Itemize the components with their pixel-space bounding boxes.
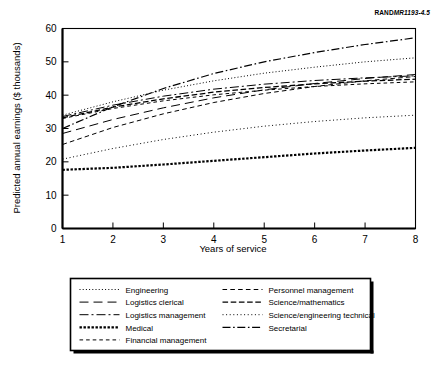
series-line [63, 38, 416, 129]
rand-figure-number: MR1193-4.5 [394, 9, 430, 16]
series-line [63, 77, 416, 145]
y-tick-label: 60 [45, 23, 57, 34]
x-tick-label: 4 [211, 234, 217, 245]
legend-item-label: Science/engineering technical [269, 311, 376, 320]
x-axis-title: Years of service [199, 243, 266, 254]
y-tick-label: 40 [45, 90, 57, 101]
y-tick-label: 50 [45, 56, 57, 67]
x-tick-label: 5 [261, 234, 267, 245]
legend-item-label: Logistics management [126, 311, 207, 320]
x-tick-label: 8 [413, 234, 419, 245]
legend-item-label: Personnel management [269, 286, 355, 295]
series-line [63, 75, 416, 134]
y-tick-label: 20 [45, 156, 57, 167]
series-line [63, 148, 416, 170]
chart-legend: EngineeringLogistics clericalLogistics m… [71, 279, 376, 354]
y-tick-label: 10 [45, 190, 57, 201]
x-tick-label: 1 [60, 234, 66, 245]
legend-item-label: Logistics clerical [126, 298, 184, 307]
series-line [63, 82, 416, 119]
legend-item-label: Financial management [126, 336, 208, 345]
series-line [63, 76, 416, 117]
y-tick-label: 30 [45, 123, 57, 134]
figure-container: RANDMR1193-4.5 Predicted annual earnings… [0, 0, 438, 367]
rand-brand-label: RAND [375, 9, 394, 16]
legend-item-label: Secretarial [269, 324, 307, 333]
axes-layer: 010203040506012345678 [45, 23, 418, 244]
x-tick-label: 2 [110, 234, 116, 245]
x-tick-label: 6 [312, 234, 318, 245]
x-tick-label: 7 [362, 234, 368, 245]
legend-item-label: Science/mathematics [269, 298, 345, 307]
earnings-line-chart: Predicted annual earnings ($ thousands) … [0, 0, 438, 367]
legend-item-label: Engineering [126, 286, 169, 295]
series-line [63, 115, 416, 159]
x-tick-label: 3 [161, 234, 167, 245]
legend-item-label: Medical [126, 324, 154, 333]
y-tick-label: 0 [51, 223, 57, 234]
y-axis-title: Predicted annual earnings ($ thousands) [11, 42, 22, 213]
rand-figure-credit: RANDMR1193-4.5 [375, 9, 430, 16]
data-lines-layer [63, 38, 416, 170]
